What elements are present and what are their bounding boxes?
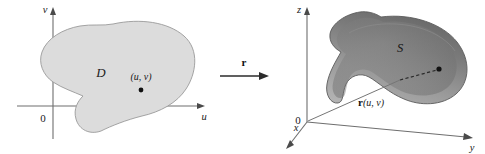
- region-d-label: D: [95, 65, 106, 80]
- u-axis-label: u: [201, 111, 206, 122]
- right-panel-group: S r(u, v) z y x 0: [286, 4, 475, 153]
- uv-point-label: (u, v): [130, 71, 152, 83]
- svg-text:r(u, v): r(u, v): [358, 96, 385, 109]
- z-axis-label: z: [296, 4, 301, 15]
- mapping-arrow-group: r: [220, 56, 269, 80]
- position-vector-line: [308, 80, 400, 121]
- figure-container: D (u, v) v u 0 r: [0, 0, 485, 154]
- mapping-arrow-label: r: [242, 56, 247, 68]
- surface-point-dot: [436, 66, 441, 71]
- left-origin-label: 0: [40, 112, 46, 124]
- v-axis-label: v: [43, 4, 48, 15]
- y-axis: [307, 122, 473, 140]
- figure-canvas: D (u, v) v u 0 r: [0, 0, 485, 154]
- z-axis: [304, 7, 310, 122]
- uv-point-dot: [139, 88, 144, 93]
- position-vector-label: r(u, v): [358, 96, 385, 109]
- region-d-shape: [41, 21, 195, 132]
- right-origin-label: 0: [295, 114, 301, 126]
- surface-s-label: S: [397, 41, 404, 55]
- y-axis-label: y: [469, 142, 475, 153]
- position-vector-label-args: (u, v): [363, 97, 385, 109]
- left-panel-group: D (u, v) v u 0: [17, 4, 207, 139]
